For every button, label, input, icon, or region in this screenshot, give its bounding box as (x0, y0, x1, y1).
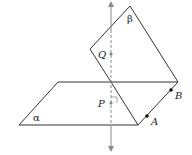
label-p: P (97, 98, 105, 109)
label-beta: β (127, 13, 133, 24)
label-a: A (150, 116, 158, 127)
point-p (109, 101, 112, 104)
point-a (145, 114, 149, 118)
label-b: B (174, 90, 182, 101)
label-alpha: α (33, 112, 40, 123)
label-q: Q (98, 49, 106, 60)
diagram-canvas: β α Q P A B (0, 0, 192, 155)
point-q (109, 52, 112, 55)
point-b (169, 88, 173, 92)
